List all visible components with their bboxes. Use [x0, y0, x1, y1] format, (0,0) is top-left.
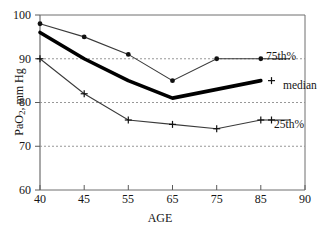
- x-axis-title: AGE: [0, 212, 320, 224]
- x-tick-label-65: 65: [160, 193, 186, 205]
- x-tick-label-45: 45: [71, 193, 97, 205]
- y-axis-title-subscript: 2: [17, 111, 27, 116]
- x-tick-label-40: 40: [27, 193, 53, 205]
- y-axis-title-base: PaO: [12, 115, 26, 136]
- y-axis-title-rest: , mm Hg: [12, 68, 26, 110]
- y-axis-title: PaO2, mm Hg: [13, 52, 25, 152]
- series-label-median: median: [283, 80, 317, 92]
- series-label-75th-percentile: 75th%: [266, 51, 296, 63]
- x-tick-label-90: 90: [292, 193, 318, 205]
- chart-figure: 100 90 80 70 60 40 45 55 65 75 85 90 PaO…: [0, 0, 320, 230]
- y-tick-label-100: 100: [5, 9, 31, 21]
- series-median: [40, 33, 275, 99]
- y-axis-ticks: [35, 15, 40, 190]
- x-tick-label-75: 75: [204, 193, 230, 205]
- gridlines: [40, 59, 305, 147]
- x-axis-ticks: [40, 185, 305, 190]
- x-tick-label-55: 55: [115, 193, 141, 205]
- series-label-25th-percentile: 25th%: [274, 119, 304, 131]
- x-tick-label-85: 85: [248, 193, 274, 205]
